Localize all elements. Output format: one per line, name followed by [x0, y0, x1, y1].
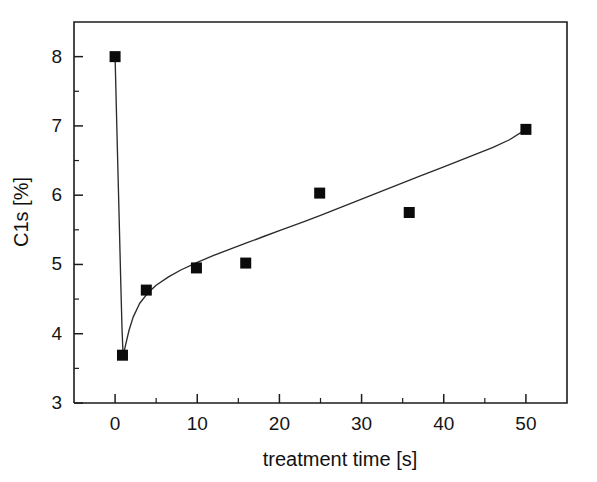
data-point-marker	[117, 350, 128, 361]
data-point-marker	[520, 124, 531, 135]
scatter-plot-canvas: 345678 01020304050 treatment time [s] C1…	[0, 0, 597, 482]
x-tick-label: 0	[110, 413, 121, 434]
x-tick-label: 20	[269, 413, 290, 434]
chart-figure: 345678 01020304050 treatment time [s] C1…	[0, 0, 597, 482]
y-tick-label: 5	[51, 253, 62, 274]
data-point-marker	[141, 285, 152, 296]
data-point-marker	[191, 262, 202, 273]
figure-background	[0, 0, 597, 482]
x-tick-label: 30	[351, 413, 372, 434]
data-point-marker	[404, 207, 415, 218]
x-tick-label: 10	[187, 413, 208, 434]
y-axis-title: C1s [%]	[10, 177, 32, 247]
y-tick-label: 3	[51, 392, 62, 413]
x-tick-label: 50	[515, 413, 536, 434]
y-tick-label: 7	[51, 115, 62, 136]
y-tick-label: 6	[51, 184, 62, 205]
data-point-marker	[240, 258, 251, 269]
y-tick-label: 8	[51, 46, 62, 67]
y-tick-label: 4	[51, 323, 62, 344]
x-tick-label: 40	[433, 413, 454, 434]
x-axis-title: treatment time [s]	[263, 448, 418, 470]
data-point-marker	[314, 188, 325, 199]
data-point-marker	[110, 51, 121, 62]
